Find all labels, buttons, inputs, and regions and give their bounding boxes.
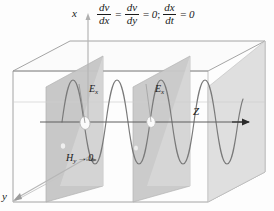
fraction-dv-dy-numerator: dv <box>125 2 139 14</box>
e-field-label-2-subscript: x <box>161 88 164 96</box>
electromagnetic-wave-diagram: dv dx = dv dy = 0 ; dx dt = 0 x y Z Ex E… <box>0 0 274 211</box>
h-field-arrow-glyph: → <box>76 152 88 163</box>
equation-operator-2: = <box>142 8 149 20</box>
fraction-dv-dy-denominator: dy <box>125 14 139 27</box>
fraction-dv-dy: dv dy <box>125 2 139 26</box>
plane-speckle-1 <box>61 143 65 149</box>
e-field-label-1: Ex <box>89 84 98 96</box>
equation-separator: ; <box>157 8 160 20</box>
e-field-label-1-subscript: x <box>95 88 98 96</box>
h-field-label: Hy→0 <box>66 153 93 165</box>
h-field-value: 0 <box>88 152 93 163</box>
e-field-label-2: Ex <box>155 84 164 96</box>
fraction-dx-dt-denominator: dt <box>163 14 176 27</box>
axis-z-label: Z <box>193 106 199 117</box>
equation-value-2: 0 <box>189 8 195 20</box>
equation-operator-1: = <box>114 8 121 20</box>
governing-equation: dv dx = dv dy = 0 ; dx dt = 0 <box>96 2 195 26</box>
plane-speckle-2 <box>134 145 138 150</box>
axis-x-arrowhead <box>86 13 91 20</box>
fraction-dv-dx: dv dx <box>97 2 111 26</box>
fraction-dv-dx-denominator: dx <box>97 14 111 27</box>
box-top-face <box>13 41 265 71</box>
diagram-canvas <box>0 0 274 211</box>
fraction-dv-dx-numerator: dv <box>97 2 111 14</box>
equation-operator-3: = <box>180 8 187 20</box>
fraction-dx-dt: dx dt <box>162 2 176 26</box>
axis-x-label: x <box>72 8 77 19</box>
fraction-dx-dt-numerator: dx <box>162 2 176 14</box>
axis-y-label: y <box>2 191 7 202</box>
